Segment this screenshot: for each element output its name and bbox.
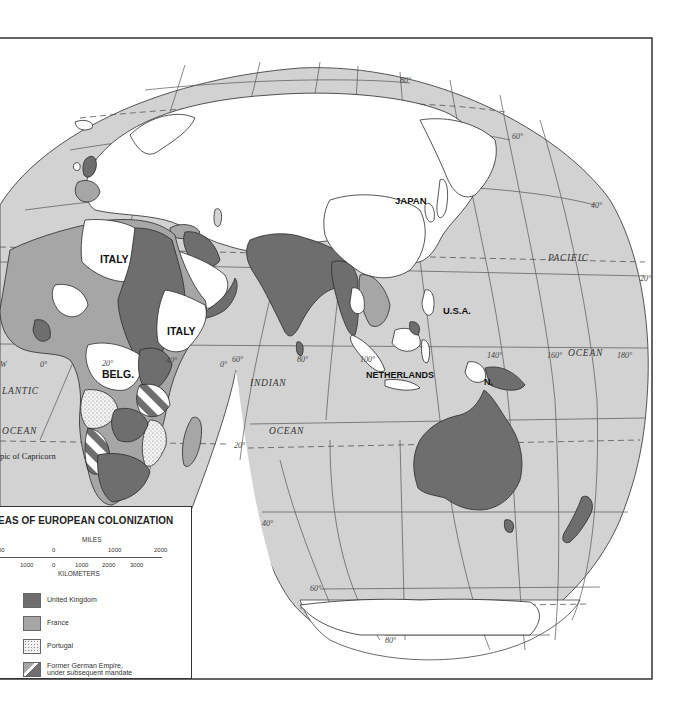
label-indian: INDIAN [249, 378, 286, 388]
label-italy-east-africa: ITALY [167, 325, 196, 337]
legend-item-united-kingdom: United Kingdom [23, 592, 97, 608]
label-lon-180: 180° [617, 351, 633, 360]
label-atlantic-ocean: OCEAN [2, 426, 37, 436]
label-netherlands: NETHERLANDS [366, 370, 434, 380]
label-lat-20s: 20° [234, 441, 246, 450]
label-lat-60n: 60° [512, 132, 524, 141]
scale-km-tick-1: 0 [52, 562, 55, 568]
scale-km-tick-2: 1000 [75, 562, 88, 568]
swatch-portugal [23, 639, 41, 654]
label-lat-40n: 40° [591, 201, 603, 210]
legend-label-line1: Former German Empire, [47, 662, 123, 669]
scale-km-label: KILOMETERS [58, 570, 100, 577]
legend-label-portugal: Portugal [47, 642, 73, 650]
label-lon-140: 140° [487, 351, 503, 360]
label-atlantic: LANTIC [1, 386, 39, 396]
label-lon-0: 0° [40, 360, 48, 369]
label-lat-80n: 80° [400, 76, 412, 85]
label-lon-100: 100° [360, 355, 376, 364]
scale-miles-tick-3: 2000 [154, 547, 167, 553]
legend-label-france: France [47, 619, 69, 627]
label-lon-80: 80° [297, 355, 309, 364]
label-lon-40: 40° [166, 356, 178, 365]
swatch-former-german-empire [23, 662, 41, 677]
legend-item-former-german-empire: Former German Empire, under subsequent m… [23, 661, 132, 677]
scale-km-tick-4: 3000 [130, 562, 143, 568]
scale-km-tick-0: 1000 [20, 562, 33, 568]
label-lon-20: 20° [102, 359, 114, 368]
legend-item-portugal: Portugal [23, 638, 73, 654]
scale-miles-tick-1: 0 [52, 547, 55, 553]
legend-label-united-kingdom: United Kingdom [47, 596, 97, 604]
scale-miles-tick-0: 00 [0, 547, 5, 553]
label-italy-libya: ITALY [100, 253, 129, 265]
swatch-france [23, 616, 41, 631]
label-pacific-ocean: OCEAN [568, 348, 603, 358]
scale-km-tick-3: 2000 [102, 562, 115, 568]
label-lat-40s: 40° [262, 519, 274, 528]
label-japan: JAPAN [395, 195, 427, 206]
swatch-united-kingdom [23, 593, 41, 608]
legend: EAS OF EUROPEAN COLONIZATION MILES 00 0 … [0, 506, 192, 679]
scale-miles-tick-2: 1000 [108, 547, 121, 553]
label-lon-60: 60° [232, 355, 244, 364]
label-lat-0-africa: 0° [220, 360, 228, 369]
scale-bar [0, 557, 162, 558]
label-tropic-capricorn: pic of Capricorn [0, 451, 56, 461]
legend-label-line2: under subsequent mandate [47, 669, 132, 676]
label-lat-20n: 20° [640, 274, 652, 283]
legend-label-former-german-empire: Former German Empire, under subsequent m… [47, 662, 132, 677]
legend-title: EAS OF EUROPEAN COLONIZATION [0, 514, 173, 526]
label-netherlands-ng: N. [484, 377, 493, 387]
label-belgium: BELG. [102, 368, 134, 380]
label-lat-60s: 60° [310, 584, 322, 593]
legend-item-france: France [23, 615, 69, 631]
label-usa: U.S.A. [443, 305, 471, 316]
label-lat-80s: 80° [385, 636, 397, 645]
label-pacific: PACIFIC [547, 253, 589, 263]
label-indian-ocean: OCEAN [269, 426, 304, 436]
label-lon-160: 160° [547, 351, 563, 360]
scale-miles-label: MILES [82, 536, 102, 543]
